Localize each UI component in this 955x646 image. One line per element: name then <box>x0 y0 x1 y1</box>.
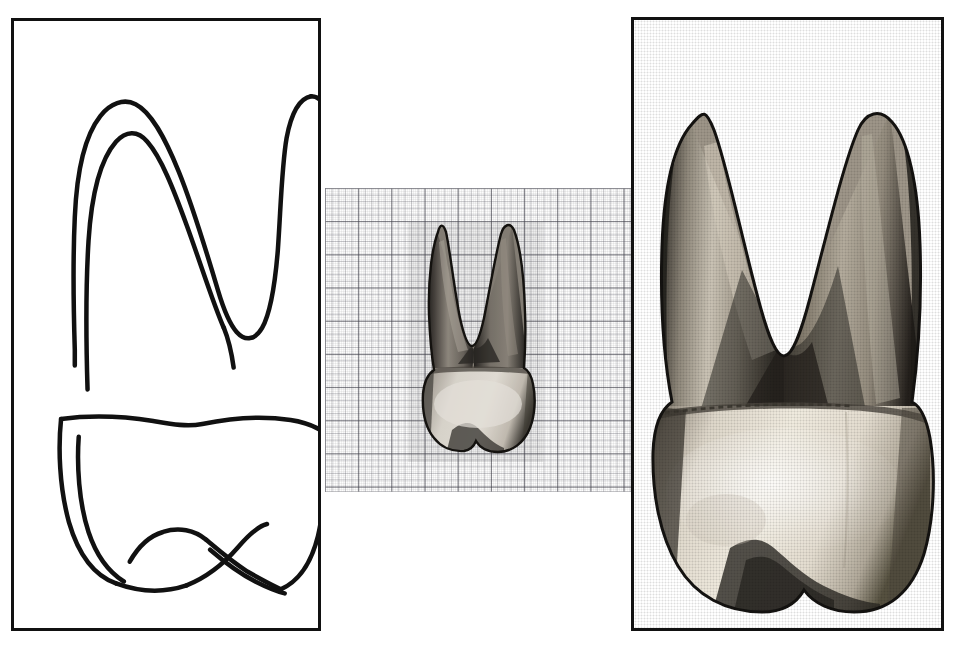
line-drawing-canvas <box>14 21 318 628</box>
tooth-photo-small <box>408 222 543 462</box>
panel-scale-reference: Specimen photographed on millimetre grap… <box>325 188 632 492</box>
figure-plate: Schematic outline drawing of tooth <box>0 0 955 646</box>
tooth-specimen-small <box>408 222 543 462</box>
tooth-outline-drawing <box>14 21 318 628</box>
figure-title: Maxillary first premolar / molar — three… <box>0 0 1 1</box>
panel-line-drawing: Schematic outline drawing of tooth <box>11 18 321 631</box>
figure-view: proximal (mesial) view <box>0 0 1 1</box>
panel-enlarged-photograph: Enlarged photograph of the same tooth <box>631 17 944 631</box>
tooth-photo-large <box>634 20 941 628</box>
photograph-canvas <box>634 20 941 628</box>
